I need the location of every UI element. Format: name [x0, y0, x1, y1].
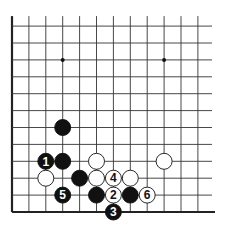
- white-stone[interactable]: [122, 170, 138, 186]
- move-number-label: 2: [110, 188, 117, 202]
- move-number-label: 5: [59, 188, 66, 202]
- star-point: [162, 58, 166, 62]
- black-stone-circle: [72, 170, 88, 186]
- go-board[interactable]: 145263: [0, 0, 234, 226]
- white-stone-circle: [89, 153, 105, 169]
- star-point: [61, 58, 65, 62]
- white-stone-circle: [122, 170, 138, 186]
- black-stone-circle: [55, 120, 71, 136]
- move-number-label: 6: [144, 188, 151, 202]
- black-stone-move-3[interactable]: 3: [105, 204, 121, 220]
- white-stone-circle: [156, 153, 172, 169]
- white-stone-circle: [38, 170, 54, 186]
- white-stone[interactable]: [89, 170, 105, 186]
- white-stone-move-4[interactable]: 4: [105, 170, 121, 186]
- black-stone[interactable]: [122, 187, 138, 203]
- white-stone-move-6[interactable]: 6: [139, 187, 155, 203]
- move-number-label: 4: [110, 171, 117, 185]
- move-number-label: 1: [42, 155, 49, 169]
- white-stone-circle: [89, 170, 105, 186]
- white-stone[interactable]: [156, 153, 172, 169]
- black-stone[interactable]: [89, 187, 105, 203]
- black-stone[interactable]: [55, 153, 71, 169]
- white-stone[interactable]: [89, 153, 105, 169]
- move-number-label: 3: [110, 205, 117, 219]
- stones-layer[interactable]: 145263: [38, 120, 172, 221]
- white-stone-move-2[interactable]: 2: [105, 187, 121, 203]
- black-stone-circle: [122, 187, 138, 203]
- black-stone[interactable]: [55, 120, 71, 136]
- black-stone-move-1[interactable]: 1: [38, 153, 54, 169]
- white-stone[interactable]: [38, 170, 54, 186]
- black-stone-move-5[interactable]: 5: [55, 187, 71, 203]
- black-stone-circle: [89, 187, 105, 203]
- black-stone-circle: [55, 153, 71, 169]
- black-stone[interactable]: [72, 170, 88, 186]
